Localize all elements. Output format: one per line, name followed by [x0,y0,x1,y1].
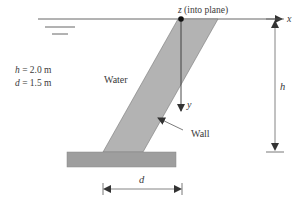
x-axis-label: x [286,13,292,24]
wall-leader-line [158,118,183,130]
wall-diagram: x h = 2.0 m d = 1.5 m Water y z (into pl… [0,0,301,204]
h-dimension-label: h [280,81,285,92]
water-surface-symbol-icon [45,27,75,34]
base-slab [67,152,176,167]
wall-label: Wall [191,128,210,139]
origin-point [178,16,184,22]
z-axis-label: z (into plane) [177,5,228,16]
water-label: Water [104,74,128,85]
y-axis-label: y [186,99,192,110]
d-dimension-label: d [139,174,145,185]
param-h: h = 2.0 m [15,65,52,75]
param-d: d = 1.5 m [15,78,52,88]
